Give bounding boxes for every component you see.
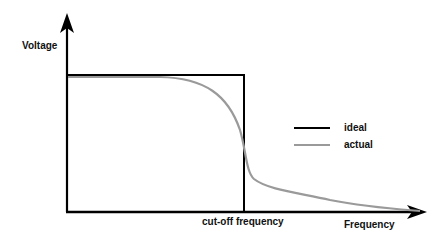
low-pass-filter-diagram: Voltage Frequency cut-off frequency idea… bbox=[0, 0, 446, 243]
cutoff-label: cut-off frequency bbox=[202, 216, 284, 227]
legend-actual-label: actual bbox=[344, 139, 373, 150]
x-axis-label: Frequency bbox=[344, 219, 395, 230]
y-axis-label: Voltage bbox=[22, 40, 58, 51]
legend-ideal-label: ideal bbox=[344, 122, 367, 133]
legend: ideal actual bbox=[294, 122, 373, 150]
